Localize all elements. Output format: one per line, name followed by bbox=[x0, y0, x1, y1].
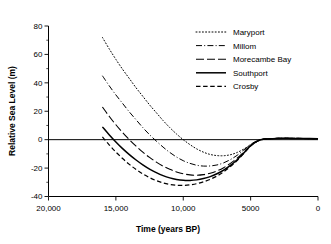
chart-figure: -40-20020406080 20,00015,00010,00050000 … bbox=[0, 0, 331, 244]
series-line-morecambe-bay bbox=[102, 107, 318, 175]
y-tick-label: 20 bbox=[34, 107, 43, 116]
series-line-millom bbox=[102, 76, 318, 166]
x-tick-label: 10,000 bbox=[171, 204, 196, 213]
x-axis-ticks bbox=[49, 197, 319, 201]
legend-label-crosby: Crosby bbox=[233, 82, 258, 91]
x-tick-label: 0 bbox=[316, 204, 321, 213]
series-line-crosby bbox=[102, 137, 318, 186]
y-tick-label: 60 bbox=[34, 50, 43, 59]
y-axis-title: Relative Sea Level (m) bbox=[7, 66, 17, 156]
axes bbox=[49, 26, 319, 197]
y-tick-label: 40 bbox=[34, 79, 43, 88]
x-tick-label: 5000 bbox=[242, 204, 260, 213]
chart-legend: MaryportMillomMorecambe BaySouthportCros… bbox=[196, 28, 291, 91]
legend-label-maryport: Maryport bbox=[233, 28, 265, 37]
x-axis-title: Time (years BP) bbox=[136, 224, 200, 234]
series-line-southport bbox=[102, 127, 318, 181]
y-tick-label: 0 bbox=[38, 135, 43, 144]
y-axis-tick-labels: -40-20020406080 bbox=[31, 22, 43, 202]
legend-label-southport: Southport bbox=[233, 69, 268, 78]
relative-sea-level-line-chart: -40-20020406080 20,00015,00010,00050000 … bbox=[0, 0, 331, 244]
x-tick-label: 15,000 bbox=[104, 204, 129, 213]
legend-label-morecambe-bay: Morecambe Bay bbox=[233, 55, 291, 64]
y-tick-label: -20 bbox=[31, 164, 43, 173]
x-axis-tick-labels: 20,00015,00010,00050000 bbox=[36, 204, 321, 213]
x-tick-label: 20,000 bbox=[36, 204, 61, 213]
legend-label-millom: Millom bbox=[233, 42, 256, 51]
y-axis-ticks bbox=[45, 26, 49, 197]
y-tick-label: -40 bbox=[31, 192, 43, 201]
y-tick-label: 80 bbox=[34, 22, 43, 31]
